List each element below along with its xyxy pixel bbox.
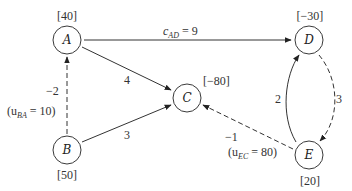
node-d: D [−30] (295, 9, 323, 54)
edge-a-c-label: 4 (124, 73, 130, 87)
edge-e-c-capacity: (uEC = 80) (228, 145, 277, 161)
node-c-supply: [−80] (203, 74, 230, 88)
node-b-label: B (62, 143, 72, 157)
edge-a-c: 4 (82, 47, 171, 90)
edge-b-a: −2 (uBA = 10) (7, 57, 67, 134)
edge-a-d-label: cAD = 9 (163, 24, 198, 40)
edge-d-e: 3 (319, 55, 342, 141)
node-e: E [20] (295, 141, 323, 188)
edge-e-d: 2 (275, 55, 299, 142)
node-b-supply: [50] (57, 168, 77, 182)
edge-e-d-label: 2 (275, 92, 281, 106)
edge-a-d: cAD = 9 (84, 24, 291, 40)
edge-e-c-label: −1 (225, 130, 238, 144)
node-d-label: D (303, 33, 314, 47)
edge-b-a-capacity: (uBA = 10) (7, 104, 56, 120)
node-b: B [50] (53, 136, 81, 182)
node-d-supply: [−30] (297, 9, 324, 23)
edge-b-c-label: 3 (124, 128, 130, 142)
node-a: A [40] (53, 9, 81, 54)
edge-b-a-label: −2 (46, 84, 59, 98)
node-c: C [−80] (173, 74, 230, 112)
network-diagram: cAD = 9 4 3 −2 (uBA = 10) 2 3 −1 (uEC = … (0, 0, 352, 191)
node-e-supply: [20] (300, 174, 320, 188)
edge-b-c: 3 (82, 105, 171, 142)
node-a-supply: [40] (57, 9, 77, 23)
node-c-label: C (182, 91, 191, 105)
node-e-label: E (304, 148, 314, 162)
edge-d-e-label: 3 (336, 92, 342, 106)
node-a-label: A (62, 33, 72, 47)
edge-e-c: −1 (uEC = 80) (203, 105, 293, 161)
